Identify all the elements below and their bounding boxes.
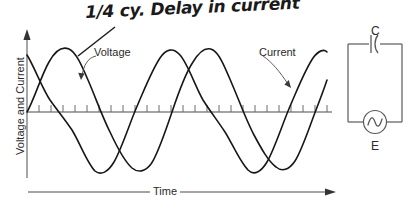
- source-label: E: [371, 139, 379, 153]
- waveform-plot: [0, 0, 350, 211]
- x-axis-label: Time: [150, 185, 180, 197]
- y-axis-arrowhead: [23, 29, 30, 40]
- y-axis-label: Voltage and Current: [14, 46, 26, 166]
- figure-root: 1/4 cy. Delay in current: [0, 0, 415, 211]
- capacitor-label: C: [371, 24, 380, 38]
- current-label-arrowhead: [284, 80, 291, 88]
- x-axis-arrowhead: [325, 188, 336, 195]
- current-curve: [27, 48, 327, 171]
- baseline-ticks: [39, 105, 327, 112]
- voltage-label-arrowhead: [78, 73, 84, 80]
- ac-source-icon: [364, 111, 387, 134]
- current-label-leader: [263, 56, 288, 84]
- voltage-curve-label: Voltage: [94, 46, 131, 58]
- current-curve-label: Current: [259, 46, 296, 58]
